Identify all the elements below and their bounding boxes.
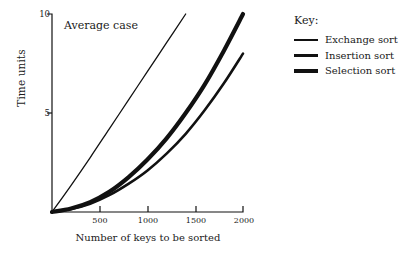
curve-insertion-sort (52, 54, 243, 212)
legend-swatch-insertion-sort (294, 54, 318, 57)
curve-exchange-sort (52, 14, 186, 212)
legend: Key: Exchange sort Insertion sort Select… (294, 14, 412, 80)
legend-title: Key: (294, 14, 412, 27)
legend-item-insertion-sort: Insertion sort (294, 49, 412, 63)
data-curves (52, 14, 243, 212)
legend-label-exchange-sort: Exchange sort (325, 35, 398, 45)
legend-label-insertion-sort: Insertion sort (325, 51, 394, 61)
chart-figure: Time units 10 5 500 1000 1500 2000 Numbe… (0, 0, 416, 257)
legend-swatch-selection-sort (294, 69, 318, 73)
legend-item-exchange-sort: Exchange sort (294, 33, 412, 47)
legend-swatch-exchange-sort (294, 39, 318, 41)
legend-item-selection-sort: Selection sort (294, 64, 412, 78)
legend-label-selection-sort: Selection sort (325, 66, 395, 76)
curve-selection-sort (52, 14, 243, 212)
